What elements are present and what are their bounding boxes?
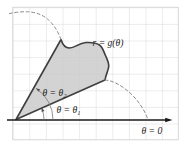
lower-ray-label-main: θ = θ — [57, 104, 78, 115]
upper-ray-label-main: θ = θ — [43, 87, 64, 98]
lower-ray-label-subscript: 1 — [77, 109, 80, 116]
polar-region-diagram: r = g(θ) θ = θ2 θ = θ1 θ = 0 — [0, 0, 179, 143]
axis-label: θ = 0 — [142, 125, 163, 136]
lower-ray-label: θ = θ1 — [57, 104, 81, 116]
polar-region-figure: r = g(θ) θ = θ2 θ = θ1 θ = 0 — [0, 0, 179, 143]
curve-label: r = g(θ) — [93, 37, 124, 49]
